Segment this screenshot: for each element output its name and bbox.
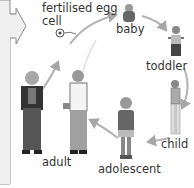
arrow-adult-to-egg [42,62,58,90]
label-baby: baby [116,23,144,35]
adult-man-figure-icon [63,70,87,154]
arrow-adolescent-to-adult [90,120,118,138]
egg-cell-icon [56,29,76,37]
life-cycle-diagram: fertilised egg cell baby toddler child a… [0,0,194,188]
adult-woman-figure-icon [21,71,43,154]
label-adolescent: adolescent [98,163,161,175]
child-figure-icon [171,80,180,134]
diagram-graphics [0,0,194,188]
arrow-toddler-to-child [182,68,188,108]
baby-figure-icon [123,4,135,22]
arrow-baby-to-toddler [142,16,166,30]
label-fertilised-egg: fertilised egg [42,2,118,14]
label-child: child [161,138,188,150]
label-toddler: toddler [146,60,187,72]
label-cell: cell [42,15,62,27]
label-adult: adult [42,156,71,168]
toddler-figure-icon [168,26,184,56]
arrow-egg-to-baby [70,15,116,44]
adolescent-figure-icon [118,97,134,159]
